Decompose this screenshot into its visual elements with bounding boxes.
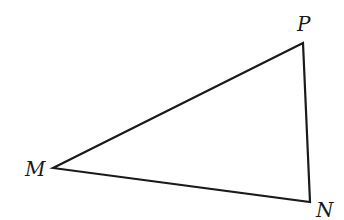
vertex-label-n: N	[316, 200, 334, 220]
vertex-label-p: P	[297, 14, 310, 34]
triangle-mpn	[53, 43, 310, 202]
vertex-label-m: M	[25, 159, 45, 179]
triangle-canvas	[0, 0, 344, 220]
triangle-diagram: P M N	[0, 0, 344, 220]
